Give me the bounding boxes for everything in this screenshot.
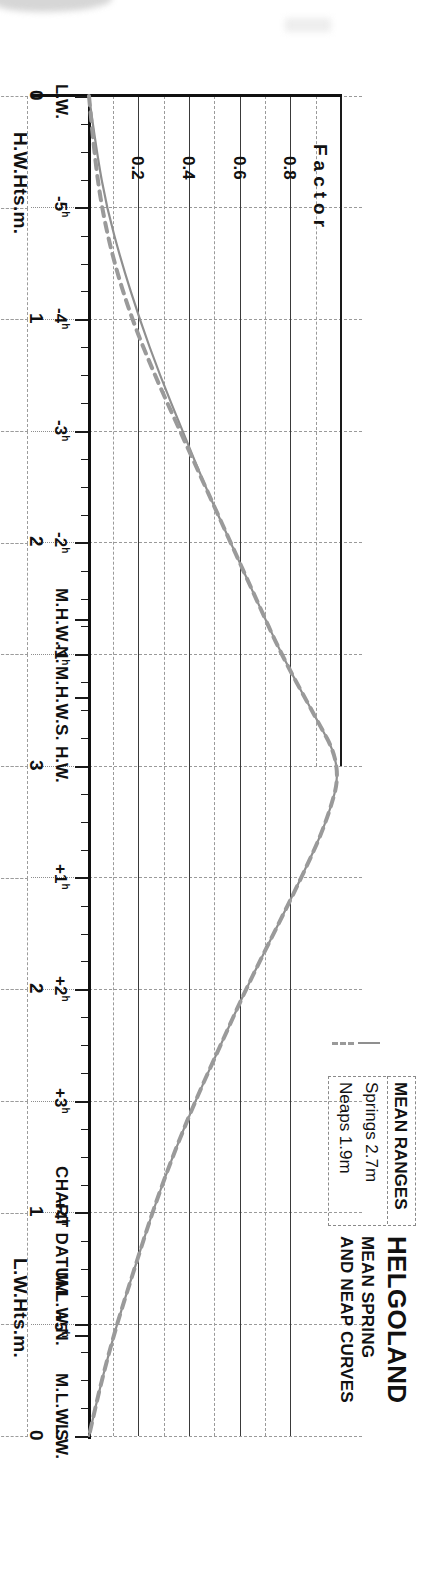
- scan-artifact-smudge: [0, 0, 112, 12]
- subtitle-line-1: MEAN SPRING: [359, 1236, 376, 1358]
- tide-curve-springs: [89, 96, 337, 1436]
- legend-header: MEAN RANGES: [392, 1082, 409, 1210]
- legend-divider: [387, 1076, 388, 1224]
- page-title: HELGOLAND: [384, 1236, 410, 1403]
- legend-swatch-neaps: [332, 1042, 354, 1045]
- legend-swatch-springs: [358, 1042, 380, 1044]
- tidal-curve-sheet: H.W.L.W. -5h -4h -3h -2h -1h H.W. +1h +2…: [14, 36, 434, 1556]
- legend-entry-neaps-label: Neaps 1.9m: [337, 1082, 354, 1174]
- tide-curve-neaps: [89, 96, 337, 1436]
- subtitle-line-2: AND NEAP CURVES: [338, 1236, 355, 1403]
- legend-entry-springs-label: Springs 2.7m: [363, 1082, 380, 1182]
- scan-artifact-smudge-light: [285, 18, 331, 32]
